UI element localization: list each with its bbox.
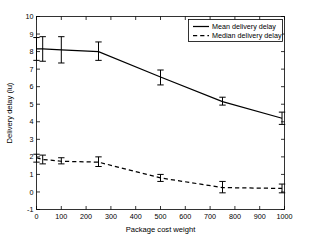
y-tick-label: 7 — [30, 65, 34, 74]
x-tick-label: 500 — [155, 212, 167, 221]
legend-label-median: Median delivery delay — [212, 31, 282, 40]
x-tick-label: 700 — [204, 212, 216, 221]
y-tick-label: 5 — [30, 100, 34, 109]
x-tick-label: 200 — [80, 212, 92, 221]
y-tick-label: 6 — [30, 82, 34, 91]
x-tick-label: 600 — [179, 212, 191, 221]
x-tick-label: 900 — [254, 212, 266, 221]
x-axis-title: Package cost weight — [126, 225, 197, 234]
x-tick-label: 800 — [229, 212, 241, 221]
y-tick-label: 8 — [30, 47, 34, 56]
x-tick-label: 300 — [105, 212, 117, 221]
y-tick-label: 4 — [30, 117, 34, 126]
legend-label-mean: Mean delivery delay — [212, 22, 276, 31]
y-tick-label: 10 — [26, 12, 34, 21]
delivery-delay-line-chart: 01002003004005006007008009001000 -101234… — [0, 0, 316, 239]
y-tick-label: 1 — [30, 170, 34, 179]
x-tick-label: 1000 — [277, 212, 293, 221]
y-tick-label: -1 — [27, 205, 33, 214]
y-axis-title: Delivery delay (lu) — [5, 82, 14, 143]
chart-legend: Mean delivery delay Median delivery dela… — [189, 20, 283, 42]
x-tick-label: 0 — [35, 212, 39, 221]
x-tick-label: 100 — [55, 212, 67, 221]
y-tick-label: 3 — [30, 135, 34, 144]
y-tick-label: 0 — [30, 188, 34, 197]
y-tick-label: 2 — [30, 152, 34, 161]
chart-figure: 01002003004005006007008009001000 -101234… — [0, 0, 316, 239]
y-tick-label: 9 — [30, 30, 34, 39]
x-tick-label: 400 — [130, 212, 142, 221]
